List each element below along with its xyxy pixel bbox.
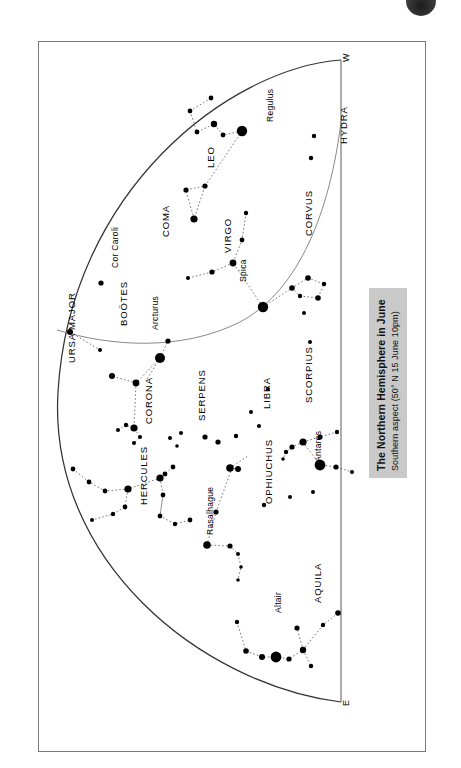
star-label-altair: Altair: [273, 592, 283, 613]
title-box: The Northern Hemisphere in June Southern…: [369, 288, 407, 478]
constellation-label-leo: LEO: [205, 146, 216, 168]
constellation-label-aquila: AQUILA: [312, 563, 323, 603]
star-label-arcturus: Arcturus: [150, 296, 160, 330]
west-marker: W: [341, 53, 351, 62]
constellation-label-corvus: CORVUS: [303, 190, 314, 236]
constellation-label-ophiuchus: OPHIUCHUS: [263, 439, 274, 504]
star-label-regulus: Regulus: [265, 89, 275, 122]
star-label-cor-caroli: Cor Caroli: [110, 227, 120, 268]
constellation-label-hercules: HERCULES: [138, 446, 149, 505]
constellation-label-hydra: HYDRA: [338, 106, 349, 144]
constellation-label-serpens: SERPENS: [196, 369, 207, 421]
star-label-spica: Spica: [238, 259, 248, 282]
east-marker: E: [341, 699, 351, 706]
constellation-label-coma: COMA: [160, 205, 171, 237]
page-title: The Northern Hemisphere in June: [375, 299, 388, 471]
constellation-label-ursa-major: URSA MAJOR: [66, 292, 77, 363]
ecliptic-curve: [57, 122, 341, 343]
page-subtitle: Southern aspect (50° N 15 June 10pm): [389, 311, 401, 471]
constellation-label-libra: LIBRA: [261, 377, 272, 409]
constellation-label-corona: CORONA: [143, 377, 154, 424]
star-chart-page: LEO COMA VIRGO CORVUS HYDRA BOÖTES URSA …: [0, 0, 461, 768]
star-label-antares: Antares: [313, 431, 323, 462]
constellation-label-bootes: BOÖTES: [118, 281, 129, 326]
star-label-rasalhague: Rasalhague: [205, 487, 215, 535]
constellation-label-scorpius: SCORPIUS: [303, 346, 314, 403]
constellation-label-virgo: VIRGO: [222, 218, 233, 253]
